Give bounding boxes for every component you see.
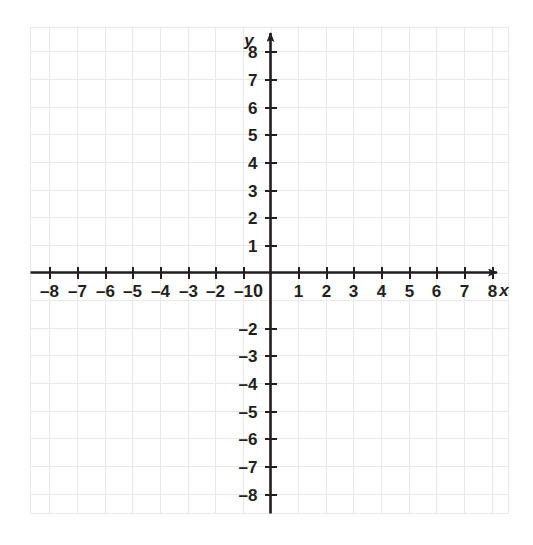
coordinate-grid-svg: –8–7–6–5–4–3–2–112345678 87654321–2–3–4–… bbox=[0, 0, 533, 545]
x-tick-label: –6 bbox=[96, 282, 115, 301]
y-tick-label: 7 bbox=[248, 71, 257, 90]
y-tick-label: 3 bbox=[248, 182, 257, 201]
y-tick-label: 6 bbox=[248, 99, 257, 118]
y-tick-label: –3 bbox=[239, 347, 258, 366]
y-tick-label: 5 bbox=[248, 126, 257, 145]
x-axis-label: x bbox=[498, 281, 510, 300]
x-tick-label: –8 bbox=[40, 282, 59, 301]
x-tick-label: 1 bbox=[294, 282, 303, 301]
x-tick-label: 7 bbox=[460, 282, 469, 301]
x-tick-label: –5 bbox=[123, 282, 142, 301]
coordinate-plane: –8–7–6–5–4–3–2–112345678 87654321–2–3–4–… bbox=[0, 0, 533, 545]
y-tick-label: –8 bbox=[239, 486, 258, 505]
y-tick-label: 2 bbox=[248, 209, 257, 228]
x-tick-label: –1 bbox=[234, 282, 253, 301]
origin-label: 0 bbox=[253, 281, 263, 301]
y-tick-label: 4 bbox=[248, 154, 258, 173]
y-tick-label: –7 bbox=[239, 458, 258, 477]
x-tick-label: 4 bbox=[377, 282, 387, 301]
x-tick-label: –2 bbox=[206, 282, 225, 301]
y-tick-label: –6 bbox=[239, 430, 258, 449]
y-tick-label: 1 bbox=[248, 237, 257, 256]
x-tick-label: 2 bbox=[322, 282, 331, 301]
y-tick-label: –2 bbox=[239, 320, 258, 339]
x-tick-label: –7 bbox=[68, 282, 87, 301]
y-tick-label: –5 bbox=[239, 403, 258, 422]
x-tick-label: 5 bbox=[405, 282, 414, 301]
y-tick-label: –4 bbox=[239, 375, 258, 394]
x-tick-label: –4 bbox=[151, 282, 170, 301]
x-tick-label: 6 bbox=[432, 282, 441, 301]
x-tick-label: 8 bbox=[488, 282, 497, 301]
x-tick-label: 3 bbox=[349, 282, 358, 301]
x-tick-label: –3 bbox=[179, 282, 198, 301]
y-axis-label: y bbox=[243, 31, 255, 50]
